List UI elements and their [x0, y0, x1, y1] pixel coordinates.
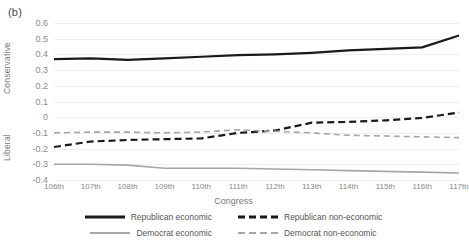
x-axis-tick: 115th [376, 182, 395, 191]
legend-item[interactable]: Republican economic [85, 212, 212, 222]
x-axis-tick: 110th [192, 182, 211, 191]
x-axis-tick: 111th [229, 182, 248, 191]
y-axis-tick: 0.3 [35, 65, 48, 75]
legend-row: Republican economicRepublican non-econom… [0, 209, 467, 225]
legend-label: Democrat economic [136, 228, 212, 238]
y-axis-tick-labels: 0.60.50.40.30.20.10-0.1-0.2-0.3-0.4 [0, 23, 52, 180]
series-line [54, 164, 459, 173]
legend-swatch-icon [90, 228, 130, 238]
gridline [54, 180, 459, 181]
plot-area [54, 23, 459, 180]
series-line [54, 130, 459, 138]
x-axis-tick: 114th [339, 182, 358, 191]
legend-item[interactable]: Republican non-economic [238, 212, 382, 222]
x-axis-tick: 116th [412, 182, 431, 191]
legend-row: Democrat economicDemocrat non-economic [0, 225, 467, 241]
legend-label: Democrat non-economic [284, 228, 377, 238]
x-axis-tick-labels: 106th107th108th109th110th111th112th113th… [54, 182, 459, 196]
x-axis-tick: 117th [449, 182, 468, 191]
legend-swatch-icon [238, 228, 278, 238]
y-axis-tick: 0.1 [35, 97, 48, 107]
x-axis-tick: 108th [118, 182, 138, 191]
panel-label: (b) [8, 6, 22, 18]
series-lines [54, 23, 459, 180]
y-axis-tick: -0.3 [32, 159, 48, 169]
x-axis-tick: 109th [154, 182, 174, 191]
series-line [54, 36, 459, 60]
x-axis-tick: 113th [302, 182, 321, 191]
x-axis-tick: 107th [81, 182, 101, 191]
legend-item[interactable]: Democrat non-economic [238, 228, 377, 238]
legend-label: Republican economic [131, 212, 212, 222]
y-axis-tick: -0.2 [32, 144, 48, 154]
x-axis-title: Congress [0, 196, 467, 206]
y-axis-tick: 0.5 [35, 34, 48, 44]
y-axis-tick: 0.2 [35, 81, 48, 91]
legend-swatch-icon [85, 212, 125, 222]
legend-item[interactable]: Democrat economic [90, 228, 212, 238]
y-axis-tick: 0 [43, 112, 48, 122]
legend-swatch-icon [238, 212, 278, 222]
y-axis-tick: -0.1 [32, 128, 48, 138]
x-axis-tick: 112th [265, 182, 284, 191]
legend-label: Republican non-economic [284, 212, 382, 222]
chart-legend: Republican economicRepublican non-econom… [0, 209, 467, 245]
y-axis-tick: 0.4 [35, 49, 48, 59]
x-axis-tick: 106th [44, 182, 64, 191]
y-axis-tick: 0.6 [35, 18, 48, 28]
